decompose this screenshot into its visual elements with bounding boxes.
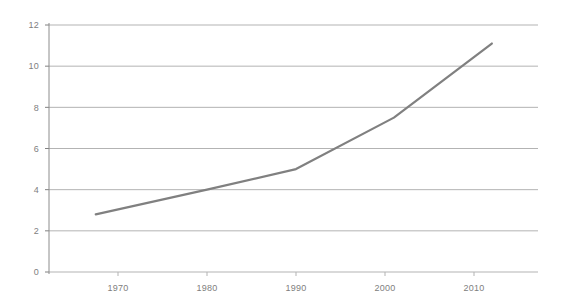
y-tick-label: 2: [34, 226, 39, 236]
x-tick-label: 1970: [108, 283, 129, 293]
y-tick-label: 12: [29, 20, 39, 30]
y-tick-label: 10: [29, 61, 39, 71]
x-tick-label: 2000: [375, 283, 396, 293]
x-tick-label: 1980: [197, 283, 218, 293]
y-tick-label: 0: [34, 267, 39, 277]
x-tick-label: 2010: [464, 283, 485, 293]
y-tick-label: 8: [34, 103, 39, 113]
chart-background: [0, 0, 563, 308]
chart-canvas: 024681012 19701980199020002010: [0, 0, 563, 308]
line-chart: 024681012 19701980199020002010: [0, 0, 563, 308]
x-tick-label: 1990: [286, 283, 307, 293]
y-tick-label: 4: [34, 185, 39, 195]
y-tick-label: 6: [34, 144, 39, 154]
